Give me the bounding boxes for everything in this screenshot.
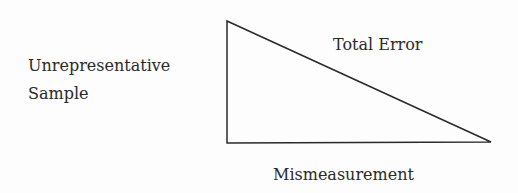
error-triangle-diagram: Unrepresentative Sample Total Error Mism… xyxy=(0,0,518,193)
label-sample: Sample xyxy=(28,82,89,106)
label-mismeasurement: Mismeasurement xyxy=(273,163,414,187)
label-total-error: Total Error xyxy=(333,33,423,57)
label-unrepresentative: Unrepresentative xyxy=(28,54,170,78)
